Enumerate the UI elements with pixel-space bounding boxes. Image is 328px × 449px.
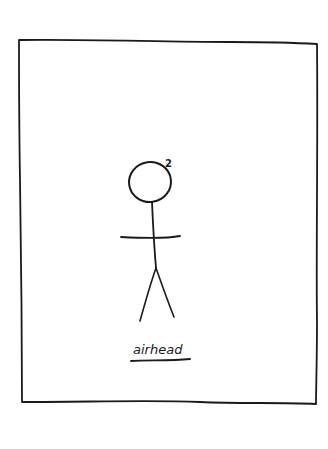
stick-figure-arms [121,236,180,238]
stick-figure-body [152,202,156,268]
stick-figure-left-leg [140,268,156,321]
comic-panel: 2 airhead [0,0,328,449]
caption: airhead [133,342,183,357]
caption-underline [131,359,190,361]
stick-figure-right-leg [156,268,174,317]
superscript-two: 2 [165,158,172,169]
